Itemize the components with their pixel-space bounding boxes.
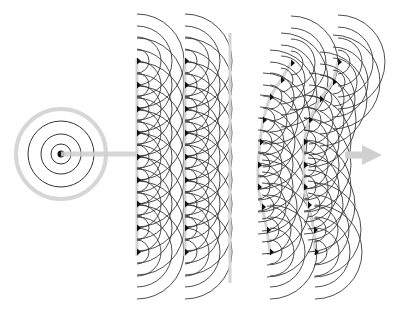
curved-guide — [304, 62, 338, 252]
secondary-source-dot — [185, 201, 189, 208]
secondary-wavelet-arc — [185, 38, 232, 132]
secondary-source-dot — [137, 130, 141, 137]
secondary-wavelet-arc — [320, 52, 367, 146]
secondary-source-dot — [185, 249, 189, 256]
secondary-source-dot — [270, 249, 274, 256]
plane-wavefront-2 — [185, 14, 232, 299]
secondary-wavelet-arc — [185, 14, 232, 108]
secondary-source-dot — [137, 106, 141, 113]
secondary-source-dot — [137, 249, 141, 256]
secondary-source-dot — [185, 225, 189, 232]
plane-wavefronts — [137, 14, 232, 299]
secondary-wavelet-arc — [137, 157, 184, 251]
huygens-diagram: Huygens principle: wavefront propagation… — [0, 0, 395, 312]
diagram-canvas — [0, 0, 395, 312]
secondary-source-dot — [185, 177, 189, 184]
secondary-source-dot — [185, 154, 189, 161]
secondary-source-dot — [137, 82, 141, 89]
arrow-head — [362, 145, 382, 165]
secondary-source-dot — [137, 225, 141, 232]
secondary-source-dot — [137, 201, 141, 208]
secondary-wavelet-arc — [137, 205, 184, 299]
arrow-shaft — [345, 152, 362, 159]
secondary-source-dot — [137, 58, 141, 65]
secondary-wavelet-arc — [137, 38, 184, 132]
secondary-source-dot — [260, 139, 264, 146]
secondary-wavelet-arc — [185, 181, 232, 275]
secondary-wavelet-arc — [333, 35, 380, 129]
secondary-wavelet-arc — [185, 86, 232, 180]
secondary-source-dot — [185, 82, 189, 89]
secondary-source-dot — [137, 154, 141, 161]
secondary-wavelet-arc — [137, 86, 184, 180]
secondary-wavelet-arc — [281, 45, 316, 115]
secondary-wavelet-arc — [137, 181, 184, 275]
secondary-source-dot — [137, 177, 141, 184]
secondary-wavelet-arc — [185, 62, 232, 156]
plane-wavefront-1 — [137, 14, 184, 299]
secondary-wavelet-arc — [185, 157, 232, 251]
secondary-source-dot — [185, 106, 189, 113]
secondary-wavelet-arc — [185, 205, 232, 299]
secondary-source-dot — [258, 162, 262, 169]
secondary-wavelet-arc — [137, 62, 184, 156]
secondary-wavelet-arc — [137, 14, 184, 108]
secondary-wavelet-arc — [291, 28, 326, 98]
secondary-source-dot — [304, 162, 308, 169]
secondary-source-dot — [185, 58, 189, 65]
secondary-source-dot — [185, 130, 189, 137]
